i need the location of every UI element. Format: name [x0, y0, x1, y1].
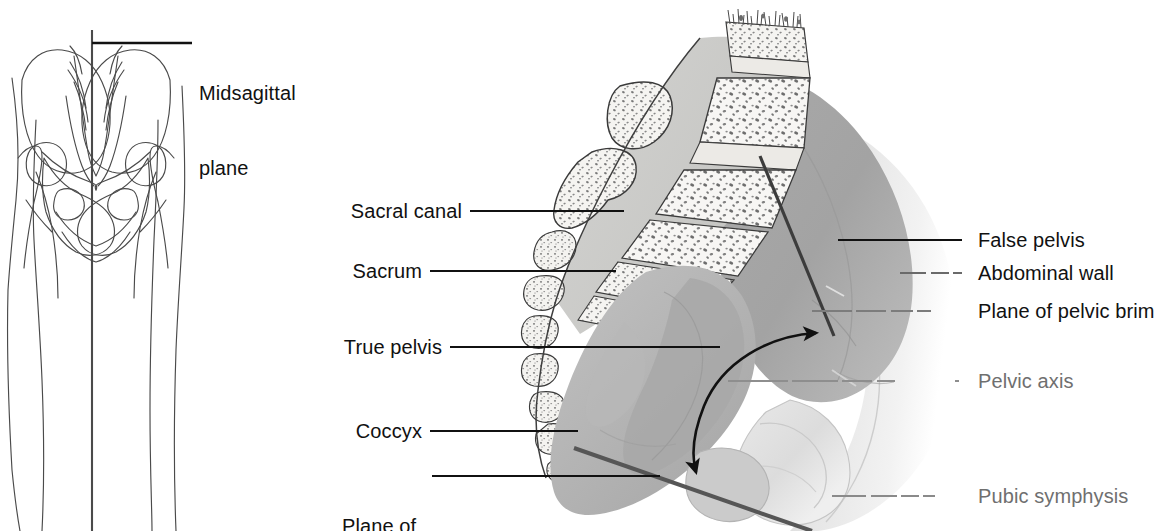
label-coccyx: Coccyx	[200, 419, 422, 444]
pelvis-anatomy-figure: Midsagittal plane Sacral canal Sacrum Tr…	[0, 0, 1164, 531]
label-abdominal-wall: Abdominal wall	[978, 261, 1114, 286]
label-plane-of-pelvic-outlet-line1: Plane of	[342, 514, 449, 531]
label-sacrum: Sacrum	[200, 259, 422, 284]
label-true-pelvis: True pelvis	[220, 335, 442, 360]
label-midsagittal-plane-line2: plane	[199, 156, 296, 181]
label-plane-of-pelvic-outlet: Plane of pelvic outlet	[342, 464, 449, 531]
label-sacral-canal: Sacral canal	[240, 199, 462, 224]
label-false-pelvis: False pelvis	[978, 228, 1085, 253]
label-pubic-symphysis: Pubic symphysis	[978, 484, 1128, 509]
label-pelvic-axis: Pelvic axis	[978, 369, 1074, 394]
inset-pelvis-line-drawing	[8, 30, 192, 531]
label-midsagittal-plane-line1: Midsagittal	[199, 81, 296, 106]
label-plane-of-pelvic-brim: Plane of pelvic brim	[978, 299, 1155, 324]
